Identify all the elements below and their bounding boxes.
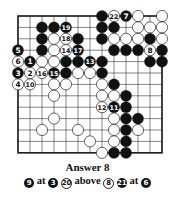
white-stone [48, 56, 59, 67]
white-stone: 4 [12, 79, 23, 90]
move-number: 19 [62, 24, 71, 32]
black-stone [132, 45, 143, 56]
white-stone [108, 136, 119, 147]
white-stone [48, 79, 59, 90]
white-stone [84, 67, 95, 78]
white-stone [48, 33, 59, 44]
move-number: 15 [50, 70, 59, 78]
white-stone: 16 [36, 67, 47, 78]
note-text: at [130, 175, 139, 186]
white-stone [156, 22, 167, 33]
white-stone [108, 113, 119, 124]
black-stone [96, 22, 107, 33]
black-stone [108, 147, 119, 158]
move-number: 2 [27, 69, 32, 78]
black-stone [156, 56, 167, 67]
white-stone [36, 124, 47, 135]
white-stone [132, 10, 143, 21]
diagram-title: Answer 8 [0, 161, 175, 173]
black-stone [36, 33, 47, 44]
move-number: 14 [62, 47, 71, 55]
black-stone [60, 56, 71, 67]
move-number: 10 [26, 81, 35, 89]
white-stone [36, 56, 47, 67]
go-board-diagram: 227191851417861133216154101211 [0, 0, 175, 160]
move-number: 17 [74, 47, 83, 55]
note-2: 20 above 8 [61, 175, 117, 186]
move-notes: 9 at 3 20 above 8 21 at 6 [0, 175, 175, 189]
black-stone [144, 56, 155, 67]
black-stone [72, 56, 83, 67]
move-number: 11 [110, 104, 119, 112]
black-stone: 1 [24, 56, 35, 67]
black-stone [36, 22, 47, 33]
black-stone: 7 [120, 10, 131, 21]
white-stone: 14 [60, 45, 71, 56]
note-3: 21 at 6 [117, 175, 151, 186]
black-stone [120, 147, 131, 158]
black-stone [60, 67, 71, 78]
black-stone [36, 45, 47, 56]
white-stone [48, 90, 59, 101]
black-stone: 5 [12, 45, 23, 56]
white-stone [96, 90, 107, 101]
move-number: 8 [147, 46, 152, 55]
white-stone: 6 [12, 56, 23, 67]
white-stone [132, 124, 143, 135]
white-stone [156, 10, 167, 21]
black-stone [120, 124, 131, 135]
black-stone: 3 [12, 67, 23, 78]
white-stone [132, 33, 143, 44]
black-stone [72, 33, 83, 44]
white-stone [144, 22, 155, 33]
white-stone [72, 124, 83, 135]
white-stone [72, 67, 83, 78]
black-stone [120, 113, 131, 124]
black-stone: 13 [84, 56, 95, 67]
move-marker: 9 [24, 178, 34, 188]
black-stone: 15 [48, 67, 59, 78]
white-stone: 18 [60, 33, 71, 44]
note-1: 9 at 3 [24, 175, 61, 186]
white-stone: 2 [24, 67, 35, 78]
move-number: 16 [38, 70, 47, 78]
move-marker: 20 [61, 178, 72, 189]
black-stone [120, 90, 131, 101]
white-stone [48, 113, 59, 124]
move-number: 3 [15, 69, 20, 78]
black-stone [96, 56, 107, 67]
move-number: 6 [15, 57, 20, 66]
move-number: 13 [86, 58, 95, 66]
black-stone [96, 33, 107, 44]
black-stone [96, 67, 107, 78]
move-number: 22 [110, 13, 119, 21]
white-stone [156, 33, 167, 44]
black-stone [108, 22, 119, 33]
black-stone: 17 [72, 45, 83, 56]
white-stone [96, 147, 107, 158]
ref-marker: 6 [141, 178, 151, 188]
white-stone [108, 90, 119, 101]
move-number: 7 [123, 12, 128, 21]
white-stone: 10 [24, 79, 35, 90]
white-stone [132, 22, 143, 33]
black-stone [120, 45, 131, 56]
white-stone [60, 79, 71, 90]
move-number: 18 [62, 35, 71, 43]
white-stone: 8 [144, 45, 155, 56]
move-marker: 21 [117, 178, 127, 188]
black-stone [108, 79, 119, 90]
black-stone [156, 45, 167, 56]
black-stone [120, 102, 131, 113]
note-text: at [37, 175, 46, 186]
black-stone [144, 33, 155, 44]
black-stone: 19 [60, 22, 71, 33]
black-stone [96, 10, 107, 21]
black-stone [108, 45, 119, 56]
move-number: 5 [15, 46, 20, 55]
move-number: 1 [27, 57, 32, 66]
black-stone: 11 [108, 102, 119, 113]
white-stone [120, 33, 131, 44]
white-stone: 22 [108, 10, 119, 21]
black-stone [132, 113, 143, 124]
